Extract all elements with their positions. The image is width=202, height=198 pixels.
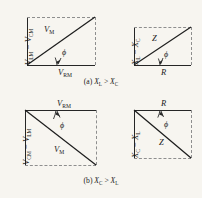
voltage-triangle-xl-gt-xc: VLM − VCM VM VRM ϕ (27, 17, 95, 65)
phase-angle-label: ϕ (60, 122, 64, 130)
angle-marker (134, 110, 191, 158)
hypotenuse-label: Z (159, 138, 164, 147)
bottom-edge (27, 65, 95, 66)
vertical-axis-label: XL − XC (131, 38, 140, 65)
horizontal-axis-label: R (161, 68, 166, 77)
impedance-triangle-xc-gt-xl: XC − XL R Z ϕ (134, 110, 191, 158)
bottom-edge-dashed (25, 165, 96, 166)
hypotenuse-label: VM (54, 145, 64, 154)
horizontal-axis-label: R (161, 99, 166, 108)
impedance-triangle-xl-gt-xc: XL − XC Z R ϕ (134, 27, 191, 65)
angle-marker (134, 27, 191, 65)
bottom-edge-dashed (134, 158, 191, 159)
caption-a: (a) XL > XC (0, 77, 202, 86)
caption-b: (b) XC > XL (0, 176, 202, 185)
vertical-axis-label: XC − XL (131, 131, 140, 158)
figure-row-a: VLM − VCM VM VRM ϕ XL − XC Z R ϕ (0, 0, 202, 99)
bottom-edge (134, 65, 191, 66)
vertical-axis-label: VCM − VLM (22, 128, 31, 165)
voltage-triangle-xc-gt-xl: VCM − VLM VRM VM ϕ (25, 110, 96, 165)
vertical-axis-label: VLM − VCM (24, 28, 33, 65)
hypotenuse-label: VM (44, 25, 54, 34)
right-edge-dashed (191, 27, 192, 65)
phase-angle-label: ϕ (62, 49, 66, 57)
right-edge-dashed (96, 110, 97, 165)
horizontal-axis-label: VRM (57, 99, 71, 108)
angle-marker (25, 110, 96, 165)
angle-marker (27, 17, 95, 65)
horizontal-axis-label: VRM (58, 68, 72, 77)
right-edge-dashed (191, 110, 192, 158)
phasor-impedance-triangle-figure: VLM − VCM VM VRM ϕ XL − XC Z R ϕ (0, 0, 202, 198)
phase-angle-label: ϕ (164, 51, 168, 59)
right-edge-dashed (95, 17, 96, 65)
phase-angle-label: ϕ (164, 121, 168, 129)
hypotenuse-label: Z (152, 34, 157, 43)
figure-row-b: VCM − VLM VRM VM ϕ XC − XL R Z ϕ (0, 99, 202, 198)
